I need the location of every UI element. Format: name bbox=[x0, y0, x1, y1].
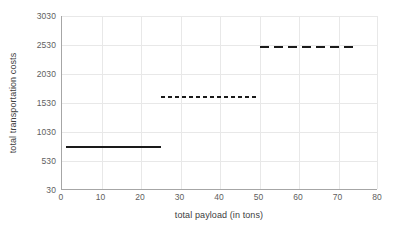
y-axis-title: total transportation costs bbox=[6, 16, 20, 190]
y-tick-label-2030: 2030 bbox=[37, 69, 56, 79]
x-tick-label-50: 50 bbox=[254, 192, 264, 202]
x-tick-label-20: 20 bbox=[135, 192, 145, 202]
gridline-x-60 bbox=[299, 16, 300, 189]
gridline-x-80 bbox=[377, 16, 378, 189]
y-axis-title-text: total transportation costs bbox=[8, 53, 18, 154]
gridline-x-20 bbox=[141, 16, 142, 189]
y-tick-label-30: 30 bbox=[46, 185, 56, 195]
series-segment-tier-3 bbox=[260, 46, 359, 48]
gridline-x-10 bbox=[102, 16, 103, 189]
x-tick-label-0: 0 bbox=[59, 192, 64, 202]
y-tick-label-1030: 1030 bbox=[37, 127, 56, 137]
series-segment-tier-2 bbox=[161, 96, 260, 98]
x-tick-label-60: 60 bbox=[293, 192, 303, 202]
x-tick-label-40: 40 bbox=[214, 192, 224, 202]
gridline-x-70 bbox=[339, 16, 340, 189]
gridline-x-30 bbox=[181, 16, 182, 189]
y-tick-label-1530: 1530 bbox=[37, 98, 56, 108]
x-tick-label-30: 30 bbox=[175, 192, 185, 202]
y-tick-label-3030: 3030 bbox=[37, 11, 56, 21]
series-segment-tier-1 bbox=[66, 146, 161, 148]
x-tick-label-80: 80 bbox=[372, 192, 382, 202]
y-tick-label-530: 530 bbox=[42, 156, 56, 166]
gridline-x-40 bbox=[220, 16, 221, 189]
x-tick-label-10: 10 bbox=[96, 192, 106, 202]
x-tick-label-70: 70 bbox=[333, 192, 343, 202]
x-axis-title: total payload (in tons) bbox=[61, 210, 377, 220]
gridline-x-50 bbox=[260, 16, 261, 189]
y-tick-label-2530: 2530 bbox=[37, 40, 56, 50]
chart-container: total transportation costs 30 530 1030 1… bbox=[0, 0, 399, 234]
plot-area bbox=[61, 16, 377, 190]
